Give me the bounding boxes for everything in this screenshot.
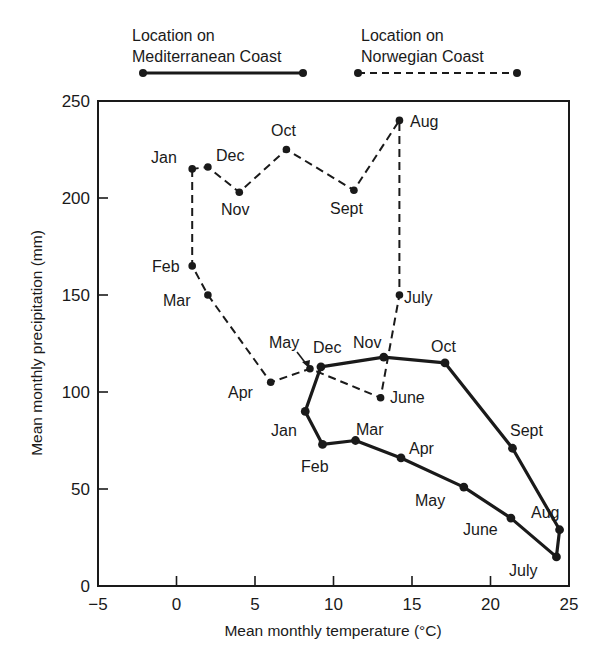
- y-tick-label: 0: [81, 577, 90, 596]
- legend-marker: [354, 69, 362, 77]
- label-norwegian-oct: Oct: [271, 122, 296, 139]
- data-point: [188, 165, 196, 173]
- x-tick-label: 20: [481, 595, 500, 614]
- label-mediterranean-oct: Oct: [431, 338, 456, 355]
- label-norwegian-mar: Mar: [163, 292, 191, 309]
- data-point: [204, 291, 212, 299]
- legend-norwegian-line1: Location on: [361, 27, 444, 44]
- label-norwegian-sept: Sept: [330, 200, 363, 217]
- label-norwegian-aug: Aug: [410, 113, 438, 130]
- label-norwegian-feb: Feb: [152, 258, 180, 275]
- legend-mediterranean-line1: Location on: [132, 27, 215, 44]
- label-norwegian-june: June: [390, 389, 425, 406]
- climate-chart: Location on Mediterranean Coast Location…: [0, 0, 606, 662]
- y-tick-label: 50: [71, 480, 90, 499]
- label-mediterranean-sept: Sept: [510, 422, 543, 439]
- x-axis: −50510152025: [88, 576, 578, 614]
- label-mediterranean-apr: Apr: [409, 440, 435, 457]
- legend: Location on Mediterranean Coast Location…: [132, 27, 521, 77]
- label-mediterranean-mar: Mar: [356, 421, 384, 438]
- data-point: [188, 262, 196, 270]
- legend-marker: [139, 69, 147, 77]
- data-point: [508, 444, 517, 453]
- y-axis-title: Mean monthly precipitation (mm): [28, 230, 45, 456]
- data-point: [507, 514, 516, 523]
- y-axis: 050100150200250: [62, 92, 108, 596]
- label-norwegian-dec: Dec: [216, 147, 244, 164]
- data-point: [267, 379, 275, 387]
- label-mediterranean-june: June: [463, 521, 498, 538]
- x-axis-title: Mean monthly temperature (°C): [224, 622, 441, 639]
- x-tick-label: 5: [250, 595, 259, 614]
- legend-mediterranean-line2: Mediterranean Coast: [132, 48, 282, 65]
- legend-norwegian-line2: Norwegian Coast: [361, 48, 484, 65]
- x-tick-label: 10: [324, 595, 343, 614]
- x-tick-label: 25: [560, 595, 579, 614]
- x-tick-label: 15: [403, 595, 422, 614]
- label-mediterranean-july: July: [509, 562, 537, 579]
- label-mediterranean-dec: Dec: [313, 339, 341, 356]
- y-tick-label: 150: [62, 286, 90, 305]
- data-point: [204, 163, 212, 171]
- label-mediterranean-aug: Aug: [531, 504, 559, 521]
- data-point: [459, 483, 468, 492]
- legend-item-mediterranean: Location on Mediterranean Coast: [132, 27, 307, 77]
- label-norwegian-may: May: [269, 334, 299, 351]
- data-point: [397, 454, 406, 463]
- data-point: [441, 359, 450, 368]
- label-mediterranean-may: May: [415, 492, 445, 509]
- data-point: [555, 525, 564, 534]
- label-norwegian-jan: Jan: [151, 149, 177, 166]
- data-point: [350, 186, 358, 194]
- data-point: [396, 117, 404, 125]
- norwegian-month-labels: Jan Dec Nov Oct Sept Aug July Feb Mar Ap…: [151, 113, 438, 406]
- legend-marker: [513, 69, 521, 77]
- label-mediterranean-feb: Feb: [301, 458, 329, 475]
- data-point: [301, 407, 310, 416]
- data-point: [552, 553, 561, 562]
- x-tick-label: 0: [172, 595, 181, 614]
- data-point: [236, 188, 244, 196]
- label-norwegian-july: July: [404, 289, 432, 306]
- y-tick-label: 200: [62, 189, 90, 208]
- data-point: [377, 394, 385, 402]
- label-norwegian-apr: Apr: [228, 384, 254, 401]
- y-tick-label: 250: [62, 92, 90, 111]
- x-tick-label: −5: [88, 595, 107, 614]
- data-point: [379, 353, 388, 362]
- data-point: [317, 362, 326, 371]
- y-tick-label: 100: [62, 383, 90, 402]
- data-point: [283, 146, 291, 154]
- data-point: [318, 440, 327, 449]
- label-norwegian-nov: Nov: [221, 201, 249, 218]
- legend-marker: [299, 69, 307, 77]
- label-mediterranean-nov: Nov: [353, 334, 381, 351]
- legend-item-norwegian: Location on Norwegian Coast: [354, 27, 521, 77]
- mediterranean-line: [305, 357, 559, 557]
- label-mediterranean-jan: Jan: [271, 422, 297, 439]
- data-point: [396, 291, 404, 299]
